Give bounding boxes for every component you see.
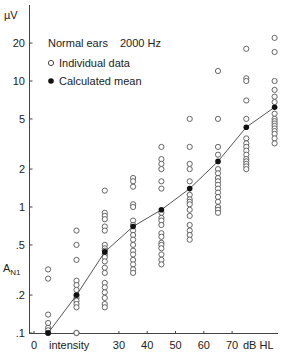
individual-data-point	[272, 49, 277, 54]
chart: µV 2010521.5.2.1 03040506070 AN1 intensi…	[0, 0, 285, 357]
individual-data-point	[102, 290, 107, 295]
individual-data-point	[159, 186, 164, 191]
individual-data-point	[131, 237, 136, 242]
individual-data-point	[244, 167, 249, 172]
legend-title: Normal ears	[48, 37, 108, 49]
individual-data-point	[187, 207, 192, 212]
legend-frequency: 2000 Hz	[120, 37, 161, 49]
individual-data-point	[102, 259, 107, 264]
individual-data-point	[187, 161, 192, 166]
x-tick-label: 70	[226, 339, 238, 351]
individual-data-point	[131, 270, 136, 275]
individual-data-point	[102, 188, 107, 193]
legend-filled-circle-icon	[48, 78, 54, 84]
y-tick-label: .5	[16, 239, 25, 251]
individual-data-point	[131, 242, 136, 247]
individual-data-point	[102, 217, 107, 222]
mean-data-point	[244, 124, 250, 130]
x-tick-label: 40	[141, 339, 153, 351]
individual-data-point	[74, 228, 79, 233]
mean-data-point	[215, 159, 221, 165]
individual-data-point	[74, 257, 79, 262]
individual-data-point	[272, 100, 277, 105]
individual-data-point	[159, 234, 164, 239]
individual-data-point	[131, 179, 136, 184]
mean-data-point	[130, 224, 136, 230]
mean-data-point	[45, 330, 51, 336]
y-tick-label: 2	[19, 163, 25, 175]
individual-data-point	[187, 167, 192, 172]
y-tick-label: .1	[16, 327, 25, 339]
y-tick-label: 10	[13, 75, 25, 87]
mean-data-point	[272, 104, 278, 110]
individual-data-point	[187, 222, 192, 227]
mean-data-point	[159, 207, 165, 213]
individual-data-point	[272, 87, 277, 92]
legend-individual-label: Individual data	[59, 57, 131, 69]
y-axis-title: AN1	[3, 262, 21, 277]
x-tick-label: 0	[31, 339, 37, 351]
individual-data-point	[272, 141, 277, 146]
individual-data-point	[187, 144, 192, 149]
individual-data-point	[102, 265, 107, 270]
individual-data-point	[187, 237, 192, 242]
individual-data-point	[244, 98, 249, 103]
individual-data-point	[102, 295, 107, 300]
y-axis-title-sub: N1	[10, 268, 21, 277]
individual-data-point	[102, 305, 107, 310]
individual-data-point	[102, 228, 107, 233]
individual-data-point	[159, 144, 164, 149]
individual-data-point	[244, 136, 249, 141]
individual-data-point	[159, 262, 164, 267]
legend: Normal ears 2000 Hz Individual data Calc…	[48, 37, 161, 87]
individual-data-point	[131, 184, 136, 189]
individual-data-point	[46, 267, 51, 272]
individual-data-point	[244, 78, 249, 83]
individual-data-point	[272, 94, 277, 99]
x-tick-label: 30	[113, 339, 125, 351]
individual-data-point	[159, 179, 164, 184]
individual-data-point	[215, 116, 220, 121]
individual-data-point	[102, 285, 107, 290]
individual-data-point	[187, 202, 192, 207]
individual-data-point	[159, 246, 164, 251]
y-tick-label: .2	[16, 289, 25, 301]
individual-data-point	[272, 111, 277, 116]
individual-data-point	[272, 78, 277, 83]
y-unit-label: µV	[4, 9, 18, 21]
y-tick-label: 5	[19, 113, 25, 125]
legend-mean-label: Calculated mean	[59, 75, 142, 87]
legend-open-circle-icon	[48, 60, 53, 65]
individual-data-point	[215, 152, 220, 157]
y-tick-label: 1	[19, 201, 25, 213]
mean-data-point	[74, 292, 80, 298]
individual-data-point	[215, 144, 220, 149]
individual-data-point	[159, 167, 164, 172]
individual-data-point	[215, 199, 220, 204]
mean-data-point	[187, 186, 193, 192]
individual-data-point	[215, 68, 220, 73]
individual-data-point	[102, 270, 107, 275]
individual-data-point	[74, 305, 79, 310]
individual-data-point	[131, 252, 136, 257]
x-tick-label: 50	[169, 339, 181, 351]
individual-data-point	[74, 330, 79, 335]
individual-data-point	[244, 46, 249, 51]
individual-data-point	[187, 179, 192, 184]
individual-data-point	[159, 161, 164, 166]
individual-data-point	[215, 210, 220, 215]
individual-data-point	[46, 276, 51, 281]
x-axis-unit: dB HL	[243, 339, 274, 351]
individual-data-point	[74, 242, 79, 247]
individual-data-point	[159, 222, 164, 227]
individual-data-point	[187, 213, 192, 218]
individual-data-point	[131, 204, 136, 209]
x-axis-title: intensity	[49, 339, 90, 351]
individual-data-point	[272, 35, 277, 40]
individual-data-point	[131, 262, 136, 267]
y-tick-label: 20	[13, 37, 25, 49]
x-tick-label: 60	[198, 339, 210, 351]
individual-data-point	[159, 252, 164, 257]
individual-data-point	[187, 116, 192, 121]
mean-data-point	[102, 249, 108, 255]
